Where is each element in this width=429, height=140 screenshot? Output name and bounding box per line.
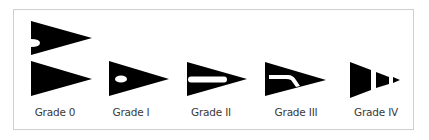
grade-2-triangle-icon	[187, 62, 247, 96]
grade-0-notched-triangle-icon	[31, 21, 92, 55]
grade-1-label: Grade I	[96, 106, 166, 118]
grade-2-label: Grade II	[176, 106, 246, 118]
grade-diagram	[0, 0, 429, 140]
grade-1-triangle-icon	[109, 61, 169, 96]
grade-3-label: Grade III	[261, 106, 331, 118]
grade-4-fragmented-triangle-icon	[350, 62, 400, 98]
grade-3-triangle-icon	[265, 62, 326, 96]
grade-0-triangle-icon	[31, 61, 92, 96]
grade-0-label: Grade 0	[20, 106, 90, 118]
grade-4-label: Grade IV	[341, 106, 411, 118]
